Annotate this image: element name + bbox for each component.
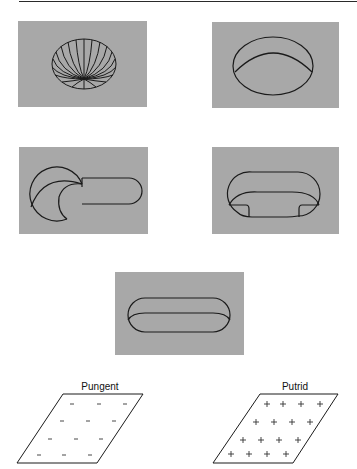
odor-planes [0, 0, 357, 469]
putrid-plus-signs [228, 401, 323, 457]
pungent-minus-signs [37, 404, 127, 455]
